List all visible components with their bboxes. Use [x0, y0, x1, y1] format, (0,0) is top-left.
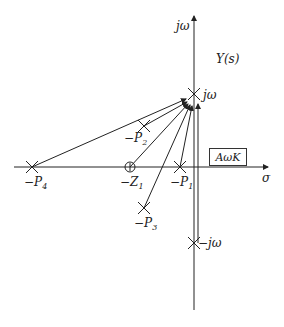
transfer-function-label: Y(s) [216, 53, 239, 65]
vertical-axis-label: jω [176, 20, 190, 32]
p1-label: −P1 [170, 176, 193, 191]
p3-label: −P3 [134, 217, 157, 232]
neg-jw-pole-label: −jω [198, 237, 222, 249]
gain-box: AωK [209, 148, 247, 166]
p4-label: −P4 [24, 176, 47, 191]
pole-zero-diagram: jω Y(s) jω −jω σ −P2 −P4 −Z1 −P1 −P3 AωK [0, 0, 284, 327]
jw-pole-label: jω [203, 89, 217, 101]
p2-label: −P2 [124, 132, 147, 147]
horizontal-axis-label: σ [262, 172, 270, 184]
z1-label: −Z1 [120, 176, 144, 191]
